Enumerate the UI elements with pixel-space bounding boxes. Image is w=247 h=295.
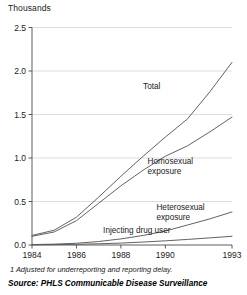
- series-label: exposure: [156, 213, 190, 222]
- gridlines-group: [32, 28, 232, 202]
- chart-source: Source: PHLS Communicable Disease Survei…: [8, 279, 207, 288]
- chart-footnote: 1 Adjusted for underreporting and report…: [10, 265, 172, 274]
- series-label: Total: [143, 82, 160, 91]
- y-axis-ticks-group: 0.00.51.01.52.02.5: [14, 23, 32, 251]
- series-label: Homosexual: [148, 157, 194, 166]
- series-label: exposure: [148, 167, 182, 176]
- x-tick-label: 1984: [23, 250, 42, 260]
- series-annotations-group: TotalHomosexualexposureHeterosexualexpos…: [103, 82, 205, 235]
- x-tick-label: 1993: [223, 250, 242, 260]
- data-series-group: [32, 62, 232, 245]
- y-tick-label: 1.5: [14, 110, 26, 120]
- series-label: Heterosexual: [156, 203, 204, 212]
- y-tick-label: 0.5: [14, 197, 26, 207]
- aids-cases-line-chart: Thousands 0.00.51.01.52.02.5 19841986198…: [0, 0, 247, 295]
- series-label: Injecting drug user: [103, 226, 171, 235]
- x-axis-ticks-group: 19841986198819901993: [23, 245, 242, 260]
- series-line: [32, 117, 232, 236]
- x-tick-label: 1988: [111, 250, 130, 260]
- y-tick-label: 2.0: [14, 66, 26, 76]
- y-tick-label: 1.0: [14, 153, 26, 163]
- x-tick-label: 1986: [67, 250, 86, 260]
- x-tick-label: 1990: [156, 250, 175, 260]
- chart-plot-area: 0.00.51.01.52.02.5 19841986198819901993 …: [0, 0, 247, 265]
- y-tick-label: 2.5: [14, 23, 26, 33]
- y-tick-label: 0.0: [14, 240, 26, 250]
